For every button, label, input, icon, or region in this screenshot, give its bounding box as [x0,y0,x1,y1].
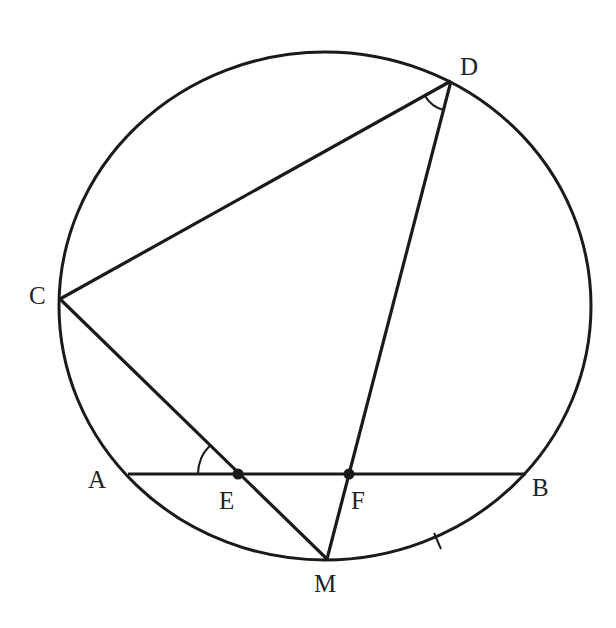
segment-DM [327,81,451,559]
segment-CM [60,299,327,559]
geometry-diagram: A B C D E F M [0,0,616,628]
label-B: B [532,474,549,501]
angle-mark-D [425,96,444,110]
circle [59,52,591,560]
label-A: A [88,466,106,493]
label-E: E [219,487,234,514]
label-C: C [29,282,46,309]
point-E-dot [233,469,244,480]
label-F: F [351,487,365,514]
label-D: D [460,53,478,80]
point-F-dot [344,469,355,480]
segment-CD [60,81,451,299]
label-M: M [314,570,336,597]
angle-mark-E [198,446,210,474]
